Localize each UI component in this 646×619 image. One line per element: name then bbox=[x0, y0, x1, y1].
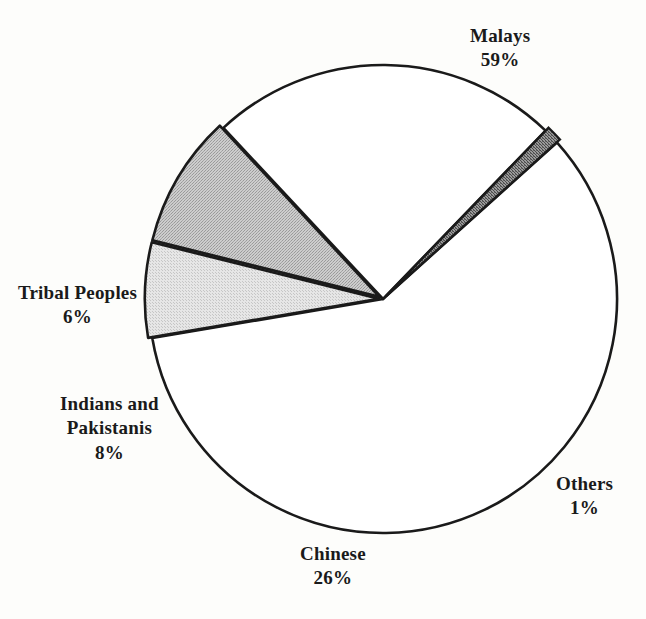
pie-label-indians-and-pakistanis-name-line2: Pakistanis bbox=[60, 416, 159, 440]
pie-label-chinese-name: Chinese bbox=[300, 542, 366, 566]
pie-label-tribal-peoples: Tribal Peoples 6% bbox=[18, 281, 137, 330]
pie-label-chinese: Chinese 26% bbox=[300, 542, 366, 591]
pie-label-indians-and-pakistanis-name-line1: Indians and bbox=[60, 392, 159, 416]
pie-label-tribal-peoples-name: Tribal Peoples bbox=[18, 281, 137, 305]
pie-label-malays: Malays 59% bbox=[470, 24, 530, 73]
pie-label-indians-and-pakistanis-value: 8% bbox=[60, 441, 159, 465]
pie-label-chinese-value: 26% bbox=[300, 566, 366, 590]
pie-label-others: Others 1% bbox=[556, 472, 613, 521]
pie-label-others-value: 1% bbox=[556, 496, 613, 520]
pie-label-tribal-peoples-value: 6% bbox=[18, 305, 137, 329]
pie-label-malays-name: Malays bbox=[470, 24, 530, 48]
pie-chart: Malays 59% Tribal Peoples 6% Indians and… bbox=[0, 0, 646, 619]
pie-label-malays-value: 59% bbox=[470, 48, 530, 72]
pie-label-others-name: Others bbox=[556, 472, 613, 496]
pie-label-indians-and-pakistanis: Indians and Pakistanis 8% bbox=[60, 392, 159, 465]
